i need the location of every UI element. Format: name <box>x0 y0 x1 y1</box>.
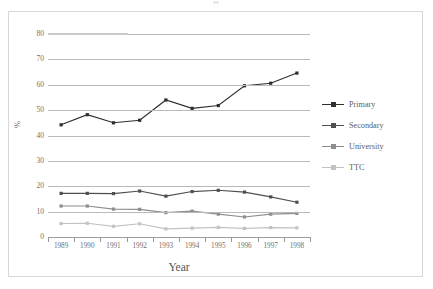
line-primary <box>61 73 297 125</box>
y-tick-label-10: 10 <box>24 208 44 216</box>
y-tick-label-70: 70 <box>24 55 44 63</box>
legend-item-secondary[interactable]: Secondary <box>322 115 417 136</box>
gridline-70 <box>48 59 310 60</box>
x-tick-3 <box>127 237 128 242</box>
point-primary-1989 <box>60 123 63 126</box>
point-university-1991 <box>112 207 115 210</box>
point-ttc-1998 <box>295 226 298 229</box>
legend-item-ttc[interactable]: TTC <box>322 157 417 178</box>
x-tick-6 <box>205 237 206 242</box>
gridline-50 <box>48 110 310 111</box>
point-secondary-1991 <box>112 192 115 195</box>
point-university-1997 <box>269 213 272 216</box>
point-ttc-1997 <box>269 226 272 229</box>
x-tick-10 <box>310 237 311 242</box>
gridline-30 <box>48 161 310 162</box>
gridline-artifact <box>48 33 128 35</box>
chart-figure: 01020304050607080 % Year Primary Seconda… <box>0 0 433 289</box>
point-ttc-1993 <box>164 227 167 230</box>
x-tick-9 <box>284 237 285 242</box>
point-primary-1995 <box>217 104 220 107</box>
gridline-20 <box>48 186 310 187</box>
point-primary-1998 <box>295 71 298 74</box>
plot-area <box>48 34 310 237</box>
point-secondary-1993 <box>164 195 167 198</box>
y-axis-label: % <box>12 121 22 128</box>
point-university-1990 <box>86 204 89 207</box>
point-ttc-1991 <box>112 225 115 228</box>
legend-label-ttc: TTC <box>349 163 364 172</box>
x-axis-label: Year <box>48 261 310 273</box>
gridline-60 <box>48 85 310 86</box>
y-tick-label-0: 0 <box>24 233 44 241</box>
y-tick-label-30: 30 <box>24 157 44 165</box>
point-primary-1993 <box>164 98 167 101</box>
chart-legend: Primary Secondary University TTC <box>322 94 417 178</box>
y-tick-label-80: 80 <box>24 30 44 38</box>
point-ttc-1992 <box>138 222 141 225</box>
point-ttc-1994 <box>191 227 194 230</box>
gridline-10 <box>48 212 310 213</box>
point-ttc-1996 <box>243 227 246 230</box>
point-primary-1991 <box>112 121 115 124</box>
point-secondary-1998 <box>295 201 298 204</box>
x-tick-0 <box>48 237 49 242</box>
point-secondary-1989 <box>60 192 63 195</box>
point-secondary-1992 <box>138 189 141 192</box>
point-secondary-1996 <box>243 190 246 193</box>
legend-label-primary: Primary <box>349 100 375 109</box>
point-primary-1990 <box>86 113 89 116</box>
legend-marker-university <box>322 142 344 151</box>
y-axis-tick-labels: 01020304050607080 <box>20 0 44 289</box>
point-secondary-1997 <box>269 195 272 198</box>
x-tick-7 <box>231 237 232 242</box>
x-tick-8 <box>258 237 259 242</box>
legend-label-secondary: Secondary <box>349 121 384 130</box>
point-university-1992 <box>138 208 141 211</box>
y-tick-label-60: 60 <box>24 81 44 89</box>
x-tick-5 <box>179 237 180 242</box>
legend-item-primary[interactable]: Primary <box>322 94 417 115</box>
x-tick-1 <box>74 237 75 242</box>
point-university-1995 <box>217 213 220 216</box>
line-ttc <box>61 223 297 229</box>
point-university-1996 <box>243 215 246 218</box>
y-tick-label-40: 40 <box>24 132 44 140</box>
point-secondary-1994 <box>191 190 194 193</box>
legend-item-university[interactable]: University <box>322 136 417 157</box>
point-secondary-1990 <box>86 192 89 195</box>
legend-marker-primary <box>322 100 344 109</box>
gridline-40 <box>48 136 310 137</box>
x-tick-2 <box>100 237 101 242</box>
point-university-1989 <box>60 204 63 207</box>
legend-marker-ttc <box>322 163 344 172</box>
point-ttc-1989 <box>60 222 63 225</box>
line-secondary <box>61 190 297 202</box>
point-secondary-1995 <box>217 189 220 192</box>
y-tick-label-20: 20 <box>24 182 44 190</box>
point-ttc-1995 <box>217 226 220 229</box>
top-artifact <box>213 1 219 4</box>
point-primary-1992 <box>138 119 141 122</box>
point-ttc-1990 <box>86 222 89 225</box>
x-tick-4 <box>153 237 154 242</box>
legend-label-university: University <box>349 142 384 151</box>
legend-marker-secondary <box>322 121 344 130</box>
y-tick-label-50: 50 <box>24 106 44 114</box>
x-tick-label-1998: 1998 <box>282 243 312 250</box>
